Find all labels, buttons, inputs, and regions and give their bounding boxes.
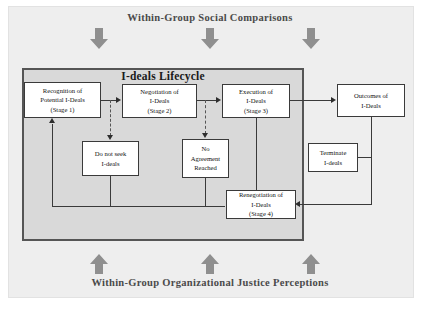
connector-outcomes-terminate [358,157,372,158]
up-block-arrow-left [89,253,109,275]
node-stage4-line3: (Stage 4) [229,209,293,219]
connector-return-to-stage1 [52,124,53,207]
bottom-banner-label: Within-Group Organizational Justice Perc… [8,277,412,288]
node-stage2-line3: (Stage 2) [125,106,194,116]
top-banner-label: Within-Group Social Comparisons [8,12,412,23]
up-block-arrow-right [301,253,321,275]
node-stage3-line3: (Stage 3) [225,106,287,116]
node-outcomes-line2: I-Deals [340,101,402,111]
node-stage3-line2: I-Deals [225,96,287,106]
node-stage2-line1: Negotiation of [125,87,194,97]
node-no-agreement-line3: Reached [185,163,226,173]
node-outcomes-line1: Outcomes of [340,91,402,101]
node-stage1-line3: (Stage 1) [27,105,98,115]
node-stage4-line1: Renegotiation of [229,190,293,200]
arrowhead-stage1-stage2 [116,97,121,103]
down-block-arrow-right [301,28,321,50]
node-outcomes[interactable]: Outcomes of I-Deals [337,84,405,117]
node-no-agreement-reached[interactable]: No Agreement Reached [182,139,229,178]
arrowhead-stage1-donotseek [107,135,113,140]
up-block-arrow-center [200,253,220,275]
connector-return-donotseek [110,176,111,206]
arrowhead-stage2-noagreement [202,133,208,138]
down-block-arrow-center [200,28,220,50]
node-terminate-line1: Terminate [311,148,355,158]
connector-outcomes-to-stage4 [300,204,372,205]
connector-stage3-outcomes [290,100,332,101]
connector-return-bus [52,206,225,207]
arrowhead-stage2-stage3 [216,97,221,103]
node-terminate-ideals[interactable]: Terminate I-deals [308,143,358,172]
node-stage4-renegotiation[interactable]: Renegotiation of I-Deals (Stage 4) [226,190,296,219]
down-block-arrow-left [89,28,109,50]
node-stage2-line2: I-Deals [125,96,194,106]
node-no-agreement-line2: Agreement [185,154,226,164]
lifecycle-title: I-deals Lifecycle [22,70,304,82]
diagram-canvas: Within-Group Social Comparisons I-deals … [0,0,427,318]
node-stage3-execution[interactable]: Execution of I-Deals (Stage 3) [222,84,290,118]
node-stage1-recognition[interactable]: Recognition of Potential I-Deals (Stage … [24,82,101,118]
node-stage1-line2: Potential I-Deals [27,95,98,105]
node-stage3-line1: Execution of [225,87,287,97]
node-do-not-seek-line2: I-deals [85,159,136,169]
node-do-not-seek[interactable]: Do not seek I-deals [82,141,139,176]
connector-stage2-stage3 [197,100,217,101]
node-terminate-line2: I-deals [311,158,355,168]
connector-return-noagreement [205,178,206,206]
connector-stage2-noagreement [205,100,206,134]
connector-outcomes-down [371,117,372,205]
node-do-not-seek-line1: Do not seek [85,149,136,159]
arrowhead-stage3-outcomes [331,97,336,103]
connector-stage1-stage2 [100,100,117,101]
node-stage2-negotiation[interactable]: Negotiation of I-Deals (Stage 2) [122,84,197,118]
node-stage4-line2: I-Deals [229,200,293,210]
connector-stage1-donotseek [110,100,111,136]
connector-stage3-stage4 [256,118,257,190]
node-no-agreement-line1: No [185,144,226,154]
arrowhead-return-to-stage1 [49,118,55,123]
node-stage1-line1: Recognition of [27,86,98,96]
